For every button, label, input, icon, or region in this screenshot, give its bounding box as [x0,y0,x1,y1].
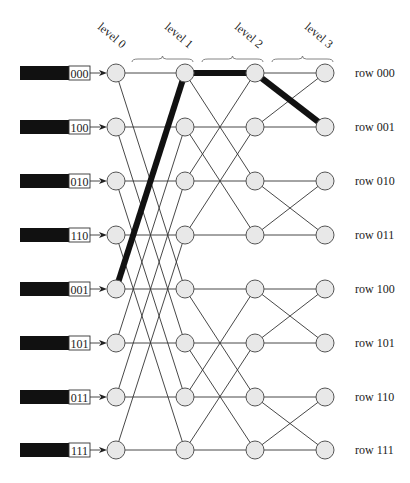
switch-node [107,64,125,82]
switch-node [316,388,334,406]
input-bars: 000100010110001101011111 [20,66,107,458]
input-bar [20,228,69,242]
input-110: 110 [20,228,107,243]
switch-node [107,334,125,352]
switch-node [246,226,264,244]
row-label: row 000 [355,66,395,80]
input-bar [20,66,69,80]
switch-node [246,172,264,190]
row-label: row 101 [355,336,395,350]
row-label: row 110 [355,390,394,404]
arrow-head-icon [99,286,107,292]
input-bar [20,120,69,134]
level-label: level 3 [302,20,336,52]
switch-node [246,280,264,298]
arrow-head-icon [99,340,107,346]
arrow-head-icon [99,232,107,238]
switch-node [176,172,194,190]
switch-node [176,226,194,244]
switch-node [316,441,334,459]
level-label: level 0 [95,20,129,52]
butterfly-diagram: level 0level 1level 2level 3 00010001011… [0,0,410,483]
switch-node [176,388,194,406]
switch-node [316,172,334,190]
input-bar [20,336,69,350]
input-011: 011 [20,390,107,405]
level-brace [272,56,333,62]
input-111: 111 [20,443,107,458]
switch-node [316,226,334,244]
input-000: 000 [20,66,107,81]
input-100: 100 [20,120,107,135]
switch-node [246,64,264,82]
arrow-head-icon [99,70,107,76]
input-101: 101 [20,336,107,351]
level-labels: level 0level 1level 2level 3 [95,20,336,52]
switch-node [316,118,334,136]
switch-node [107,172,125,190]
switch-node [246,441,264,459]
switch-node [176,441,194,459]
level-braces [132,56,333,62]
nodes [107,64,334,459]
input-label: 001 [71,283,89,297]
arrow-head-icon [99,394,107,400]
row-label: row 011 [355,228,394,242]
switch-node [107,388,125,406]
row-label: row 111 [355,443,394,457]
input-label: 011 [71,391,89,405]
input-label: 010 [71,175,89,189]
arrow-head-icon [99,447,107,453]
switch-node [316,334,334,352]
level-label: level 2 [232,20,266,52]
input-bar [20,390,69,404]
switch-node [246,388,264,406]
switch-node [176,64,194,82]
input-label: 110 [71,229,89,243]
switch-node [246,118,264,136]
input-010: 010 [20,174,107,189]
switch-node [176,280,194,298]
arrow-head-icon [99,124,107,130]
switch-node [176,334,194,352]
switch-node [107,118,125,136]
switch-node [316,280,334,298]
edges [116,73,325,450]
row-label: row 001 [355,120,395,134]
input-bar [20,174,69,188]
switch-node [316,64,334,82]
level-label: level 1 [162,20,196,52]
input-label: 000 [71,67,89,81]
input-bar [20,282,69,296]
row-labels: row 000row 001row 010row 011row 100row 1… [355,66,395,457]
switch-node [246,334,264,352]
input-label: 100 [71,121,89,135]
arrow-head-icon [99,178,107,184]
switch-node [107,441,125,459]
level-brace [202,56,263,62]
input-bar [20,443,69,457]
row-label: row 100 [355,282,395,296]
level-brace [132,56,193,62]
switch-node [176,118,194,136]
switch-node [107,280,125,298]
row-label: row 010 [355,174,395,188]
input-label: 101 [71,337,89,351]
input-001: 001 [20,282,107,297]
switch-node [107,226,125,244]
input-label: 111 [71,444,88,458]
